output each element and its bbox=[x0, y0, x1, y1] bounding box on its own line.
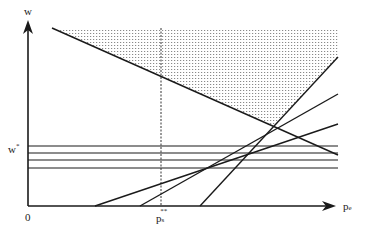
origin-label: 0 bbox=[25, 212, 31, 223]
diagram-canvas bbox=[0, 0, 365, 236]
w-star-label: w* bbox=[8, 143, 19, 155]
rising-line-shallow bbox=[95, 124, 338, 206]
shaded-region bbox=[52, 28, 338, 126]
y-axis-label: w bbox=[24, 6, 32, 17]
x-axis-label: pe bbox=[343, 201, 352, 212]
p-marker-label: ps** bbox=[156, 212, 171, 224]
